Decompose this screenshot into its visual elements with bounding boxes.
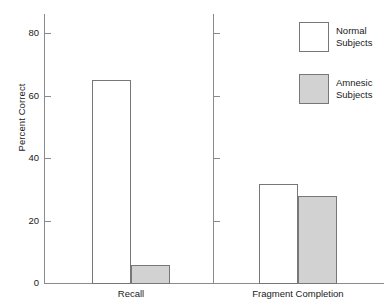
tick-mark-60-middle [214, 96, 220, 97]
y-tick-label-40: 40 [9, 152, 39, 163]
tick-mark-40-left [45, 158, 51, 159]
tick-mark-20-middle [214, 221, 220, 222]
y-tick-label-80: 80 [9, 27, 39, 38]
y-tick-label-60: 60 [9, 90, 39, 101]
x-axis-label-recall: Recall [81, 288, 181, 299]
y-axis-line-left [44, 14, 45, 284]
y-tick-label-0: 0 [9, 277, 39, 288]
x-axis-label-fragment-completion: Fragment Completion [228, 288, 368, 299]
tick-mark-60-left [45, 96, 51, 97]
bar-fragment-completion-amnesic [298, 196, 337, 284]
legend: Normal Subjects Amnesic Subjects [299, 22, 385, 126]
bar-fragment-completion-normal [259, 184, 298, 284]
legend-swatch-normal [299, 22, 329, 52]
tick-mark-20-left [45, 221, 51, 222]
y-tick-label-20: 20 [9, 215, 39, 226]
legend-swatch-amnesic [299, 74, 329, 104]
bar-chart: Percent Correct 80 60 40 20 0 Recall Fra… [0, 0, 388, 308]
legend-item-normal-subjects: Normal Subjects [299, 22, 385, 52]
legend-label-normal: Normal Subjects [336, 22, 372, 48]
legend-label-amnesic: Amnesic Subjects [336, 74, 372, 100]
legend-item-amnesic-subjects: Amnesic Subjects [299, 74, 385, 104]
y-axis-line-middle [213, 14, 214, 284]
tick-mark-40-middle [214, 158, 220, 159]
y-axis-title: Percent Correct [16, 53, 27, 183]
tick-mark-80-middle [214, 33, 220, 34]
tick-mark-80-left [45, 33, 51, 34]
bar-recall-amnesic [131, 265, 170, 284]
bar-recall-normal [92, 80, 131, 284]
